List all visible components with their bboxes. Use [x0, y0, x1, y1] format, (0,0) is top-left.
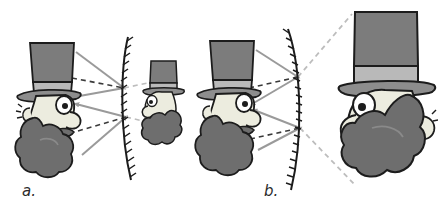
- hat-crown-a: [30, 43, 74, 82]
- image-hat-crown-a: [150, 61, 177, 83]
- mirror-reflection-figure: a.: [0, 0, 438, 210]
- figure-canvas: a.: [0, 0, 438, 210]
- hat-crown-b: [210, 41, 254, 80]
- image-pupil-a: [149, 100, 153, 104]
- image-pupil-b: [358, 103, 366, 111]
- pupil-b: [242, 101, 248, 107]
- pupil-a: [62, 103, 68, 109]
- panel-b-label: b.: [264, 182, 278, 200]
- panel-a-label: a.: [22, 182, 36, 200]
- image-hat-crown-b: [354, 12, 418, 66]
